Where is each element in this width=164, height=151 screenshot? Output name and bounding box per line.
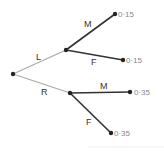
label-R-M: M — [100, 81, 108, 91]
leaf-R-M — [128, 90, 132, 94]
node-R — [68, 91, 72, 95]
root-node — [11, 72, 15, 76]
branch-R-M — [70, 92, 130, 93]
label-L: L — [36, 52, 41, 62]
value-R-M: 0·35 — [134, 88, 151, 97]
value-L-F: 0·15 — [126, 56, 143, 65]
branch-R-F — [70, 93, 111, 133]
leaf-R-F — [109, 131, 113, 135]
value-R-F: 0·35 — [114, 129, 131, 138]
leaf-L-M — [113, 12, 117, 16]
leaf-L-F — [121, 58, 125, 62]
label-R-F: F — [86, 117, 92, 127]
node-L — [64, 48, 68, 52]
probability-tree: L R M F M F 0·15 0·15 0·35 0·35 — [0, 0, 164, 151]
label-L-M: M — [84, 19, 92, 29]
label-L-F: F — [91, 57, 97, 67]
value-L-M: 0·15 — [118, 10, 135, 19]
label-R: R — [41, 87, 48, 97]
